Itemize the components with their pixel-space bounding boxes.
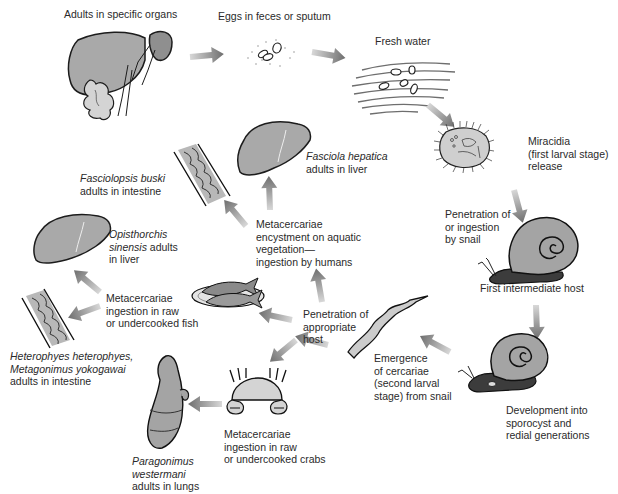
- label-crabs-line-1: Metacercariae: [224, 428, 326, 441]
- fasciolopsis-location: adults in intestine: [80, 185, 165, 198]
- arrow-vegetation-to-fasciolopsis: [218, 195, 252, 231]
- label-miracidia: Miracidia (first larval stage) release: [528, 135, 609, 173]
- arrow-eggs-to-water: [311, 44, 347, 66]
- opisthorchis-adults: adults: [147, 241, 178, 253]
- opisthorchis-species-name-1: Opisthorchis: [109, 228, 178, 241]
- label-fish-line-1: Metacercariae: [106, 292, 198, 305]
- label-host-penetration-line-1: Penetration of: [303, 308, 368, 321]
- arrow-penetration-to-crab: [265, 334, 301, 368]
- label-cercariae-line-4: stage) from snail: [374, 390, 452, 403]
- fresh-water-icon: [352, 63, 455, 114]
- label-fish-line-3: or undercooked fish: [106, 317, 198, 330]
- heterophyes-intestine-icon: [22, 289, 74, 348]
- label-adults: Adults in specific organs: [64, 8, 177, 21]
- label-development: Development into sporocyst and redial ge…: [506, 404, 589, 442]
- label-miracidia-line-1: Miracidia: [528, 135, 609, 148]
- label-snail-penetration-line-3: by snail: [445, 233, 510, 246]
- opisthorchis-species-name-2: sinensis: [109, 241, 147, 253]
- paragonimus-species-name-1: Paragonimus: [132, 455, 199, 468]
- adults-organs-icon: [68, 31, 172, 119]
- label-snail-penetration-line-2: or ingestion: [445, 221, 510, 234]
- arrow-crab-to-lungs: [188, 396, 222, 412]
- fasciola-species-name: Fasciola hepatica: [306, 150, 388, 163]
- fasciola-liver-icon: [238, 122, 311, 175]
- arrow-penetration-to-vegetation: [308, 267, 330, 303]
- label-host-penetration: Penetration of appropriate host: [303, 308, 368, 346]
- label-miracidia-line-3: release: [528, 160, 609, 173]
- label-first-host: First intermediate host: [480, 282, 584, 295]
- heterophyes-species-name: Heterophyes heterophyes,: [10, 350, 133, 363]
- arrow-fish-to-heterophyes: [65, 298, 102, 325]
- opisthorchis-liver-icon: [34, 215, 111, 264]
- arrow-adults-to-eggs: [189, 46, 224, 65]
- label-vegetation-line-2: encystment on aquatic: [256, 231, 361, 244]
- label-crabs-line-2: ingestion in raw: [224, 441, 326, 454]
- label-development-line-2: sporocyst and: [506, 417, 589, 430]
- label-cercariae-line-3: (second larval: [374, 377, 452, 390]
- crab-icon: [227, 368, 287, 414]
- label-crabs-line-3: or undercooked crabs: [224, 453, 326, 466]
- eggs-icon: [247, 39, 295, 67]
- label-miracidia-line-2: (first larval stage): [528, 148, 609, 161]
- opisthorchis-location: in liver: [109, 253, 178, 266]
- label-vegetation: Metacercariae encystment on aquatic vege…: [256, 218, 361, 268]
- paragonimus-location: adults in lungs: [132, 480, 199, 493]
- arrow-vegetation-to-fasciola: [261, 176, 278, 211]
- label-heterophyes: Heterophyes heterophyes, Metagonimus yok…: [10, 350, 133, 388]
- label-development-line-3: redial generations: [506, 429, 589, 442]
- label-crabs: Metacercariae ingestion in raw or underc…: [224, 428, 326, 466]
- label-fish: Metacercariae ingestion in raw or underc…: [106, 292, 198, 330]
- label-development-line-1: Development into: [506, 404, 589, 417]
- label-fasciolopsis: Fasciolopsis buski adults in intestine: [80, 172, 165, 197]
- label-vegetation-line-1: Metacercariae: [256, 218, 361, 231]
- label-fish-line-2: ingestion in raw: [106, 305, 198, 318]
- metagonimus-species-name: Metagonimus yokogawai: [10, 363, 133, 376]
- label-cercariae-line-1: Emergence: [374, 352, 452, 365]
- label-fasciola: Fasciola hepatica adults in liver: [306, 150, 388, 175]
- snail-development-icon: [458, 334, 548, 392]
- label-snail-penetration-line-1: Penetration of: [445, 208, 510, 221]
- arrow-first-host-to-development: [528, 305, 545, 340]
- arrow-fish-to-opisthorchis: [69, 264, 105, 298]
- label-vegetation-line-3: vegetation—: [256, 243, 361, 256]
- label-fresh-water: Fresh water: [375, 35, 430, 48]
- label-vegetation-line-4: ingestion by humans: [256, 256, 361, 269]
- fasciolopsis-intestine-icon: [174, 144, 230, 206]
- fasciolopsis-species-name: Fasciolopsis buski: [80, 172, 165, 185]
- label-host-penetration-line-2: appropriate: [303, 321, 368, 334]
- label-cercariae: Emergence of cercariae (second larval st…: [374, 352, 452, 402]
- fish-plate-icon: [192, 278, 264, 308]
- heterophyes-location: adults in intestine: [10, 375, 133, 388]
- label-host-penetration-line-3: host: [303, 333, 368, 346]
- label-cercariae-line-2: of cercariae: [374, 365, 452, 378]
- label-paragonimus: Paragonimus westermani adults in lungs: [132, 455, 199, 493]
- paragonimus-lungs-icon: [148, 356, 189, 449]
- fasciola-location: adults in liver: [306, 163, 388, 176]
- label-opisthorchis: Opisthorchis sinensis adults in liver: [109, 228, 178, 266]
- paragonimus-species-name-2: westermani: [132, 468, 199, 481]
- miracidia-icon: [434, 121, 494, 173]
- label-eggs: Eggs in feces or sputum: [218, 10, 331, 23]
- label-snail-penetration: Penetration of or ingestion by snail: [445, 208, 510, 246]
